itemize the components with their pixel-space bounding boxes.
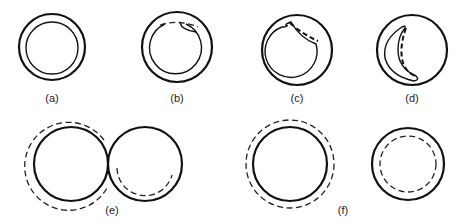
panel-f-label: (f)	[338, 204, 348, 216]
panel-a: (a)	[19, 14, 85, 104]
panel-e: (e)	[25, 122, 182, 216]
diagram-figure: (a) (b) (c) (d) (e) (f)	[0, 0, 462, 224]
panel-b: (b)	[142, 12, 212, 104]
panel-d: (d)	[377, 15, 447, 104]
panel-e-label: (e)	[105, 204, 118, 216]
panel-e-left-circle	[34, 127, 108, 201]
panel-f-right-dashed-inner	[380, 136, 436, 192]
panel-f: (f)	[246, 120, 444, 216]
panel-d-dashed-edge	[401, 28, 416, 76]
panel-a-inner-circle	[26, 22, 78, 74]
panel-e-right-circle	[108, 127, 182, 201]
panel-c-outer-circle	[262, 15, 332, 85]
panel-f-left-dashed-outer	[246, 120, 334, 208]
panel-b-dashed-original-wall	[160, 22, 198, 27]
panel-f-left-circle	[253, 127, 327, 201]
panel-c-dashed-original-wall	[290, 23, 318, 41]
panel-d-label: (d)	[405, 92, 418, 104]
panel-c-inner-wall	[265, 22, 317, 77]
panel-a-outer-circle	[19, 14, 85, 80]
panel-c-label: (c)	[291, 92, 304, 104]
panel-a-label: (a)	[45, 92, 58, 104]
panel-f-right-circle	[372, 128, 444, 200]
panel-e-right-dashed-inner	[117, 168, 172, 196]
panel-b-label: (b)	[170, 92, 183, 104]
panel-c: (c)	[262, 15, 332, 104]
